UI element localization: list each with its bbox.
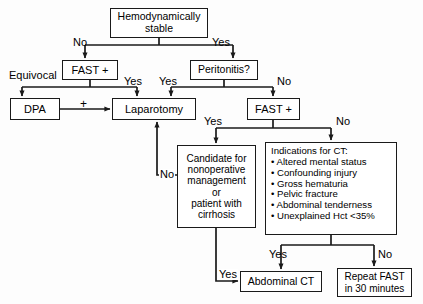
node-hemodynamically-stable-line1: Hemodynamically (118, 10, 201, 22)
edge-label-stable-yes: Yes (212, 37, 230, 48)
edge-label-stable-no: No (73, 37, 87, 48)
edge-label-peritonitis-yes: Yes (159, 76, 177, 87)
edge-label-indications-yes: Yes (269, 249, 287, 260)
edge-label-candidate-no: No (159, 169, 175, 180)
node-repeat-fast-line1: Repeat FAST (344, 271, 404, 282)
node-fast-left-label: FAST + (70, 64, 111, 76)
node-repeat-fast-label: Repeat FASTin 30 minutes (342, 271, 406, 293)
edge-label-dpa-plus: + (80, 98, 87, 110)
indications-header: Indications for CT: (271, 146, 391, 157)
edge-label-fast-right-no: No (336, 116, 350, 127)
flowchart-canvas: Hemodynamicallystable FAST + Peritonitis… (0, 0, 423, 304)
node-repeat-fast-line2: in 30 minutes (345, 283, 404, 294)
node-hemodynamically-stable[interactable]: Hemodynamicallystable (110, 8, 208, 38)
node-laparotomy[interactable]: Laparotomy (112, 98, 196, 120)
node-candidate-line6: cirrhosis (198, 209, 235, 220)
node-fast-right-label: FAST + (253, 103, 294, 115)
node-laparotomy-label: Laparotomy (123, 103, 185, 115)
indications-item: • Unexplained Hct <35% (271, 211, 391, 222)
edge-label-peritonitis-no: No (277, 76, 291, 87)
node-candidate-line5: patient with (191, 198, 242, 209)
edge-label-fast-left-yes: Yes (124, 76, 142, 87)
edge-label-fast-left-equivocal: Equivocal (9, 70, 57, 81)
node-hemodynamically-stable-line2: stable (145, 22, 173, 34)
node-abdominal-ct[interactable]: Abdominal CT (240, 271, 322, 292)
edge-label-candidate-yes: Yes (218, 269, 238, 280)
node-candidate-label: Candidate fornonoperativemanagementorpat… (184, 153, 248, 220)
node-fast-left[interactable]: FAST + (62, 60, 118, 80)
node-peritonitis[interactable]: Peritonitis? (190, 60, 258, 80)
node-candidate-line1: Candidate for (186, 153, 246, 164)
node-peritonitis-label: Peritonitis? (196, 64, 252, 76)
node-indications-for-ct[interactable]: Indications for CT: • Altered mental sta… (265, 142, 397, 235)
node-fast-right[interactable]: FAST + (247, 98, 300, 120)
node-dpa[interactable]: DPA (10, 98, 60, 120)
node-repeat-fast[interactable]: Repeat FASTin 30 minutes (337, 268, 412, 297)
node-candidate-line2: nonoperative (188, 164, 246, 175)
node-candidate-nonoperative[interactable]: Candidate fornonoperativemanagementorpat… (177, 145, 256, 228)
node-hemodynamically-stable-label: Hemodynamicallystable (116, 11, 203, 35)
node-dpa-label: DPA (22, 103, 48, 115)
indications-list: Indications for CT: • Altered mental sta… (266, 143, 396, 224)
edge-label-indications-no: No (378, 249, 392, 260)
node-candidate-line4: or (212, 187, 221, 198)
edge-label-fast-right-yes: Yes (204, 116, 222, 127)
node-abdominal-ct-label: Abdominal CT (246, 276, 317, 288)
node-candidate-line3: management (187, 175, 245, 186)
